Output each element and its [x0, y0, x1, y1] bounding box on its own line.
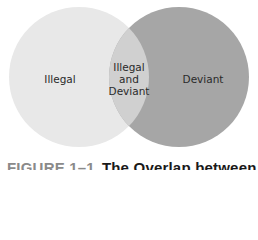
illegal-label: Illegal [38, 73, 82, 85]
intersection-line-2: and [104, 73, 154, 85]
intersection-line-1: Illegal [104, 61, 154, 73]
figure-caption: FIGURE 1–1The Overlap between [7, 159, 257, 170]
figure-number: FIGURE 1–1 [7, 159, 95, 170]
deviant-label: Deviant [175, 73, 231, 85]
intersection-line-3: Deviant [104, 85, 154, 97]
figure-title: The Overlap between [102, 159, 257, 170]
intersection-label: Illegal and Deviant [104, 61, 154, 97]
